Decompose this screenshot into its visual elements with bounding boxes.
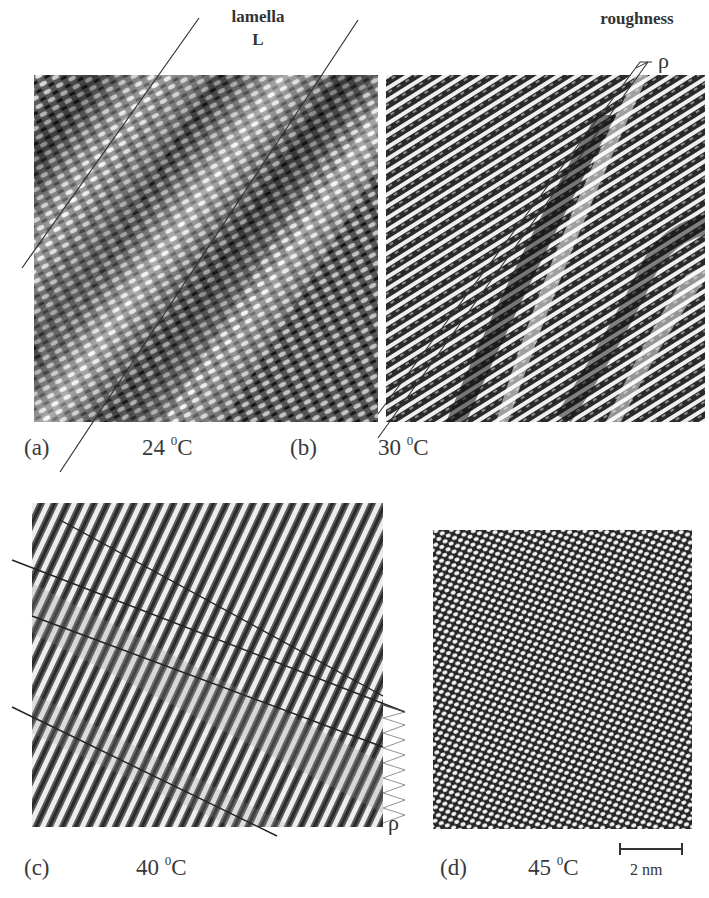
scale-bar-label: 2 nm (630, 862, 662, 878)
lamella-line-c-0 (60, 520, 383, 696)
roughness-annotation: roughness (582, 10, 692, 27)
roughness-line-2 (378, 62, 648, 438)
temperature-label-d: 45 0C (528, 856, 579, 879)
panel-label-a: (a) (24, 436, 50, 459)
panel-label-b: (b) (290, 436, 317, 459)
panel-label-c: (c) (24, 856, 50, 879)
roughness-symbol-c: ρ (388, 812, 399, 834)
temperature-label-c: 40 0C (136, 856, 187, 879)
roughness-line-1 (378, 62, 640, 414)
panel-label-d: (d) (440, 856, 467, 879)
lamella-annotation: lamella L (218, 8, 298, 48)
annotation-lines (0, 0, 709, 898)
lamella-boundary-line-1 (22, 18, 199, 268)
roughness-hatch (383, 705, 405, 823)
lamella-boundary-line-2 (60, 20, 358, 472)
temperature-label-b: 30 0C (378, 436, 429, 459)
temperature-label-a: 24 0C (142, 436, 193, 459)
scale-bar (620, 843, 682, 855)
lamella-line-c-1 (12, 560, 405, 712)
roughness-symbol-b: ρ (658, 50, 669, 72)
lamella-line-c-3 (12, 707, 277, 836)
